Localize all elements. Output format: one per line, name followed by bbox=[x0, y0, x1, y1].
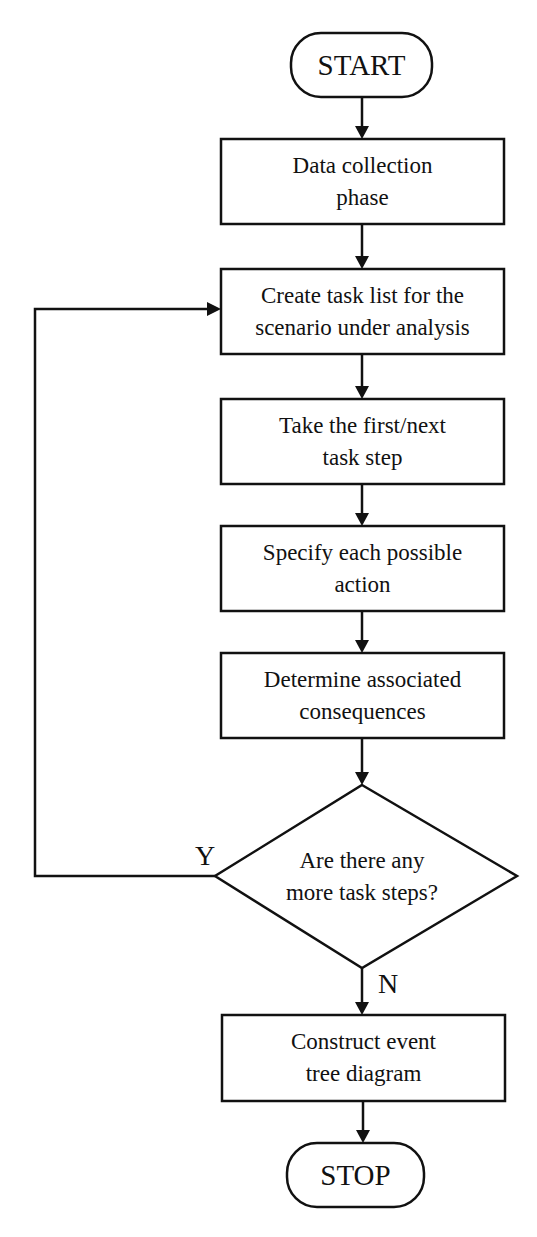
step-determine-consequences: Determine associated consequences bbox=[221, 653, 504, 738]
step-line: task step bbox=[323, 442, 403, 474]
yes-label: Y bbox=[195, 840, 215, 872]
step-line: action bbox=[334, 569, 390, 601]
step-line: Take the first/next bbox=[279, 410, 446, 442]
step-line: Create task list for the bbox=[261, 280, 464, 312]
step-line: Data collection bbox=[293, 150, 433, 182]
stop-label: STOP bbox=[287, 1143, 424, 1207]
loop-back-connector bbox=[35, 309, 215, 876]
decision-text: Are there any more task steps? bbox=[245, 845, 479, 909]
stop-text: STOP bbox=[320, 1159, 390, 1191]
step-construct-tree: Construct event tree diagram bbox=[222, 1015, 505, 1101]
step-line: tree diagram bbox=[306, 1058, 422, 1090]
step-line: Specify each possible bbox=[263, 537, 462, 569]
step-line: phase bbox=[336, 182, 388, 214]
step-line: Construct event bbox=[291, 1026, 436, 1058]
step-create-task-list: Create task list for the scenario under … bbox=[221, 269, 504, 354]
step-line: scenario under analysis bbox=[255, 312, 470, 344]
decision-line: Are there any bbox=[299, 845, 424, 877]
step-line: Determine associated bbox=[264, 664, 461, 696]
start-label: START bbox=[291, 33, 432, 97]
start-text: START bbox=[318, 49, 406, 81]
step-take-step: Take the first/next task step bbox=[221, 399, 504, 484]
step-data-collection: Data collection phase bbox=[221, 139, 504, 224]
step-specify-action: Specify each possible action bbox=[221, 526, 504, 611]
step-line: consequences bbox=[299, 696, 425, 728]
no-label: N bbox=[378, 968, 398, 1000]
decision-line: more task steps? bbox=[286, 877, 438, 909]
